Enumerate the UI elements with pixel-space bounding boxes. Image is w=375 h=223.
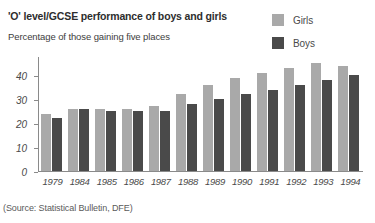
- y-tick-mark: 20: [34, 124, 38, 125]
- x-label-1989: 1989: [201, 176, 228, 187]
- bar-girls-1985: [95, 109, 105, 171]
- y-tick-label: 30: [16, 95, 27, 106]
- bar-group-1987: [147, 57, 174, 171]
- y-tick-mark: 40: [34, 76, 38, 77]
- x-label-1992: 1992: [283, 176, 310, 187]
- bar-group-1994: [336, 57, 363, 171]
- legend-swatch-girls-icon: [272, 14, 284, 26]
- bar-boys-1990: [241, 94, 251, 171]
- source-note: (Source: Statistical Bulletin, DFE): [3, 203, 133, 213]
- bar-group-1992: [282, 57, 309, 171]
- bar-group-1993: [309, 57, 336, 171]
- bar-girls-1991: [257, 73, 267, 171]
- bar-boys-1988: [187, 104, 197, 171]
- bar-girls-1989: [203, 85, 213, 171]
- bar-group-1979: [39, 57, 66, 171]
- bar-group-1986: [120, 57, 147, 171]
- x-label-1993: 1993: [310, 176, 337, 187]
- bar-girls-1986: [122, 109, 132, 171]
- legend-item-boys: Boys: [272, 33, 315, 53]
- y-tick-label: 20: [16, 119, 27, 130]
- bar-girls-1990: [230, 78, 240, 171]
- legend-swatch-boys-icon: [272, 37, 284, 49]
- bar-boys-1985: [106, 111, 116, 171]
- bar-group-1990: [228, 57, 255, 171]
- bar-boys-1984: [79, 109, 89, 171]
- x-label-1986: 1986: [120, 176, 147, 187]
- bar-girls-1992: [284, 68, 294, 171]
- chart-subtitle: Percentage of those gaining five places: [8, 31, 170, 42]
- bar-group-1985: [93, 57, 120, 171]
- bar-group-1988: [174, 57, 201, 171]
- chart-title: 'O' level/GCSE performance of boys and g…: [8, 10, 227, 22]
- bar-boys-1989: [214, 99, 224, 171]
- bar-girls-1994: [338, 66, 348, 171]
- x-axis-line: [38, 171, 363, 172]
- bar-girls-1987: [149, 106, 159, 171]
- legend-item-girls: Girls: [272, 10, 315, 30]
- bar-girls-1993: [311, 63, 321, 171]
- bars-layer: [39, 57, 363, 171]
- x-label-1988: 1988: [174, 176, 201, 187]
- bar-boys-1994: [349, 75, 359, 171]
- x-label-1979: 1979: [39, 176, 66, 187]
- y-tick-mark: 30: [34, 100, 38, 101]
- bar-boys-1993: [322, 80, 332, 171]
- y-tick-label: 0: [21, 167, 27, 178]
- x-label-1990: 1990: [229, 176, 256, 187]
- x-label-1987: 1987: [147, 176, 174, 187]
- bar-group-1989: [201, 57, 228, 171]
- y-tick-label: 10: [16, 143, 27, 154]
- bar-boys-1991: [268, 90, 278, 171]
- bar-boys-1992: [295, 85, 305, 171]
- legend-label: Boys: [293, 38, 315, 49]
- x-label-1984: 1984: [66, 176, 93, 187]
- y-tick-mark: 10: [34, 148, 38, 149]
- chart-legend: GirlsBoys: [272, 10, 315, 56]
- bar-group-1984: [66, 57, 93, 171]
- y-tick-mark: 0: [34, 172, 38, 173]
- x-label-1991: 1991: [256, 176, 283, 187]
- bar-girls-1984: [68, 109, 78, 171]
- y-tick-label: 40: [16, 71, 27, 82]
- bar-girls-1979: [41, 114, 51, 172]
- bar-boys-1979: [52, 118, 62, 171]
- legend-label: Girls: [293, 15, 313, 26]
- x-axis-labels: 1979198419851986198719881989199019911992…: [39, 176, 364, 187]
- bar-group-1991: [255, 57, 282, 171]
- x-label-1985: 1985: [93, 176, 120, 187]
- bar-boys-1986: [133, 111, 143, 171]
- plot-area: 010203040: [38, 57, 363, 172]
- bar-girls-1988: [176, 94, 186, 171]
- x-label-1994: 1994: [337, 176, 364, 187]
- bar-boys-1987: [160, 111, 170, 171]
- chart-figure: 'O' level/GCSE performance of boys and g…: [0, 0, 375, 223]
